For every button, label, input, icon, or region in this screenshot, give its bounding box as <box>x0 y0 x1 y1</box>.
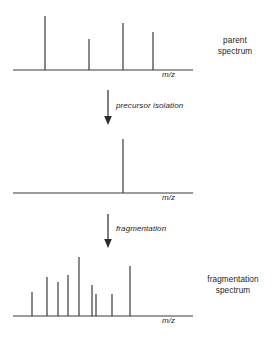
parent-axis-label: m/z <box>162 70 175 79</box>
fragmentation-step-label: fragmentation <box>116 224 166 233</box>
fragmentation-spectrum-panel: m/z fragmentation spectrum <box>0 252 278 337</box>
figure-canvas: m/z parent spectrum precursor isolation … <box>0 0 278 337</box>
fragmentation-caption-line-2: spectrum <box>190 286 276 297</box>
fragmentation-caption-line-1: fragmentation <box>190 275 276 286</box>
parent-spectrum-plot <box>0 0 210 80</box>
precursor-isolation-label: precursor isolation <box>116 101 183 110</box>
parent-spectrum-panel: m/z parent spectrum <box>0 0 278 88</box>
fragmentation-spectrum-plot <box>0 252 210 332</box>
precursor-isolation-step: precursor isolation <box>0 88 278 128</box>
parent-spectrum-caption: parent spectrum <box>196 36 274 57</box>
precursor-spectrum-plot <box>0 128 210 208</box>
fragmentation-axis-label: m/z <box>162 316 175 325</box>
fragmentation-spectrum-caption: fragmentation spectrum <box>190 275 276 296</box>
precursor-axis-label: m/z <box>162 193 175 202</box>
precursor-spectrum-panel: m/z <box>0 128 278 210</box>
fragmentation-step: fragmentation <box>0 210 278 252</box>
parent-caption-line-2: spectrum <box>196 47 274 58</box>
parent-caption-line-1: parent <box>196 36 274 47</box>
